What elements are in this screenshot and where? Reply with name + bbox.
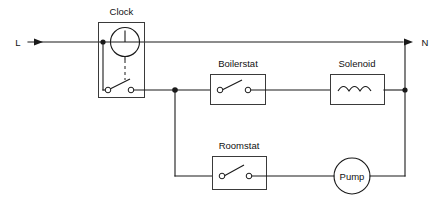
solenoid-component[interactable]: Solenoid xyxy=(331,58,406,105)
boilerstat-switch-lever-icon[interactable] xyxy=(222,80,242,90)
neutral-terminal-label: N xyxy=(422,37,429,48)
boilerstat-label: Boilerstat xyxy=(218,58,258,69)
live-rail-group xyxy=(28,39,413,46)
roomstat-enclosure xyxy=(213,157,267,190)
roomstat-label: Roomstat xyxy=(219,140,260,151)
boilerstat-contact-right xyxy=(245,87,251,93)
pump-component[interactable]: Pump xyxy=(334,158,405,194)
live-flow-arrow-icon xyxy=(34,39,43,46)
circuit-diagram: Clock Boilerstat Solenoid xyxy=(0,0,447,203)
solenoid-label: Solenoid xyxy=(339,58,376,69)
clock-enclosure xyxy=(99,23,145,98)
live-terminal-label: L xyxy=(15,37,20,48)
schematic-canvas: Clock Boilerstat Solenoid xyxy=(0,0,447,203)
roomstat-component[interactable]: Roomstat xyxy=(213,140,335,190)
boilerstat-component[interactable]: Boilerstat xyxy=(211,58,331,105)
clock-label: Clock xyxy=(110,6,134,17)
switched-live-bus-group xyxy=(172,87,212,176)
roomstat-switch-lever-icon[interactable] xyxy=(224,165,244,176)
roomstat-contact-left xyxy=(219,173,225,179)
clock-switch-lever-icon[interactable] xyxy=(110,79,130,89)
clock-component[interactable]: Clock xyxy=(99,6,176,98)
neutral-rail-group xyxy=(402,42,407,176)
solenoid-coil-icon xyxy=(338,87,371,92)
clock-switch-contact-right xyxy=(128,87,134,93)
roomstat-contact-right xyxy=(246,173,252,179)
pump-label: Pump xyxy=(340,171,365,182)
boilerstat-contact-left xyxy=(217,87,223,93)
clock-switch-contact-left xyxy=(105,87,111,93)
